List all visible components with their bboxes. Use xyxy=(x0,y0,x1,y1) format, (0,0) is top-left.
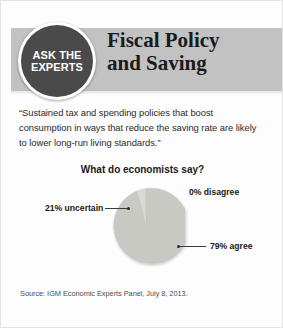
ask-the-experts-card: ASK THE EXPERTS Fiscal Policy and Saving… xyxy=(0,0,283,328)
badge-line-1: ASK THE xyxy=(33,49,82,61)
leader-line-agree xyxy=(179,246,206,247)
pie-slice-agree xyxy=(114,188,185,263)
page-title: Fiscal Policy and Saving xyxy=(107,29,277,74)
title-line-1: Fiscal Policy xyxy=(107,29,277,52)
leader-dot-agree xyxy=(177,245,180,248)
chart-heading: What do economists say? xyxy=(1,164,283,175)
pie-chart-svg xyxy=(107,187,185,265)
badge-inner-circle: ASK THE EXPERTS xyxy=(21,25,93,97)
ask-the-experts-badge: ASK THE EXPERTS xyxy=(18,22,96,100)
leader-line-uncertain xyxy=(105,208,129,209)
title-line-2: and Saving xyxy=(107,52,277,75)
pie-label-disagree: 0% disagree xyxy=(189,187,239,197)
pie-label-uncertain: 21% uncertain xyxy=(45,203,103,213)
leader-dot-uncertain xyxy=(127,207,130,210)
pie-label-agree: 79% agree xyxy=(210,241,253,251)
badge-line-2: EXPERTS xyxy=(31,61,83,73)
pie-chart xyxy=(107,187,185,265)
source-citation: Source: IGM Economic Experts Panel, July… xyxy=(20,289,188,298)
expert-quote: “Sustained tax and spending policies tha… xyxy=(19,105,266,151)
